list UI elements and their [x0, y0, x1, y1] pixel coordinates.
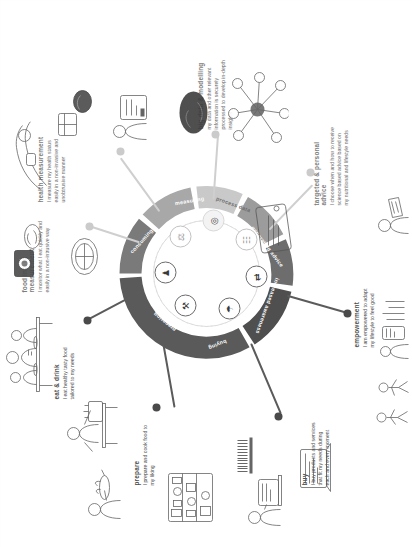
- advice-icon: ☷: [242, 235, 251, 243]
- illustration-cooking-person: [62, 395, 120, 455]
- callout-title-prepare: prepare: [132, 423, 139, 485]
- illustration-data-network: [226, 71, 288, 147]
- callout-eat-and-drink: eat & drink I eat healthy tasty food tai…: [52, 335, 75, 399]
- spoke-dot-food-intake: [85, 222, 93, 230]
- callout-targeted-and-personal-advice: targeted & personal advice I choose when…: [312, 125, 349, 205]
- illustration-tablet-advice: [252, 195, 298, 255]
- process-icon: ◎: [209, 216, 218, 224]
- inner-node-measuring[interactable]: ⚖: [169, 225, 191, 247]
- rotated-artboard: preparing consuming measuring process da…: [0, 0, 412, 547]
- measuring-icon: ⚖: [176, 232, 185, 240]
- consuming-icon: ♟: [161, 268, 170, 276]
- illustration-active-people: [372, 367, 412, 429]
- illustration-food-camera: [6, 221, 52, 279]
- inner-node-increased-awareness[interactable]: ⇄: [245, 265, 267, 287]
- callout-title-targeted-and-personal-advice: targeted & personal advice: [312, 125, 327, 205]
- illustration-family-eating: [2, 311, 54, 397]
- illustration-body-scan: [52, 87, 102, 139]
- illustration-health-record: [108, 89, 154, 147]
- illustration-shopping-checkout: [238, 469, 294, 531]
- spoke-dot-big-data: [211, 130, 219, 138]
- illustration-chef-pan: [82, 469, 130, 527]
- illustration-plate-food: [62, 233, 102, 279]
- diagram-stage: preparing consuming measuring process da…: [0, 0, 412, 547]
- callout-body-empowerment: I am empowered to adapt my lifestyle to …: [361, 281, 375, 347]
- preparing-icon: ⚒: [181, 301, 190, 309]
- inner-node-process-data[interactable]: ◎: [202, 209, 224, 231]
- spoke-dot-empowerment: [343, 309, 351, 317]
- spoke-dot-health-measurement: [116, 147, 124, 155]
- illustration-grocery-shelf: [162, 467, 218, 527]
- buying-icon: ☂: [225, 304, 234, 312]
- illustration-person-reading: [374, 183, 412, 241]
- awareness-icon: ⇄: [252, 272, 261, 280]
- illustration-barcode-label: [234, 433, 254, 475]
- poster-canvas: preparing consuming measuring process da…: [0, 0, 412, 547]
- inner-node-preparing[interactable]: ⚒: [174, 294, 196, 316]
- spoke-dot-eat-and-drink: [83, 316, 91, 324]
- callout-empowerment: empowerment I am empowered to adapt my l…: [352, 281, 375, 347]
- callout-body-targeted-and-personal-advice: I choose when and how to receive science…: [328, 125, 349, 205]
- illustration-person-phone: [376, 295, 412, 365]
- spoke-dot-buy: [274, 412, 282, 420]
- callout-prepare: prepare I prepare and cook food to my li…: [132, 423, 155, 485]
- inner-node-buying[interactable]: ☂: [218, 297, 240, 319]
- illustration-brain-blob: [176, 89, 210, 135]
- callout-title-empowerment: empowerment: [352, 281, 359, 347]
- callout-body-prepare: I prepare and cook food to my liking: [141, 423, 155, 485]
- inner-node-consuming[interactable]: ♟: [154, 261, 176, 283]
- spoke-dot-prepare: [152, 403, 160, 411]
- callout-body-eat-and-drink: I eat healthy tasty food tailored to my …: [61, 335, 75, 399]
- illustration-laptop-order: [294, 439, 340, 495]
